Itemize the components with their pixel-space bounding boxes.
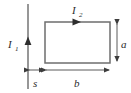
label-i2-subscript: 2	[79, 11, 83, 19]
current-direction-arrow-i2	[73, 19, 82, 26]
label-i1-subscript: 1	[15, 45, 19, 53]
label-b: b	[74, 77, 80, 89]
rectangular-loop	[45, 19, 110, 63]
long-straight-wire	[25, 4, 32, 89]
label-s: s	[33, 77, 37, 89]
label-a: a	[121, 38, 127, 50]
physics-diagram-canvas: I 1 I 2 a s b	[0, 0, 131, 93]
current-direction-arrow-i1	[25, 37, 32, 46]
label-i1: I	[7, 38, 13, 50]
label-i2: I	[71, 4, 77, 16]
figure-container: I 1 I 2 a s b	[0, 0, 131, 93]
loop-rectangle	[45, 22, 110, 63]
